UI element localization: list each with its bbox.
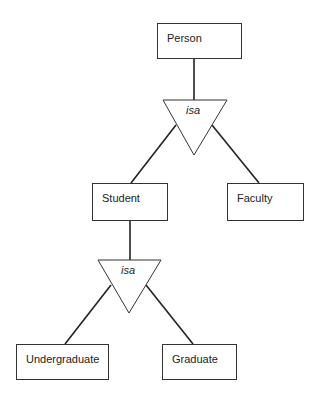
entity-student: Student [92,183,168,221]
entity-label: Graduate [172,353,218,365]
entity-graduate: Graduate [162,344,237,380]
entity-label: Person [167,32,202,44]
isa-label-1: isa [186,104,200,116]
isa-label-2: isa [121,264,135,276]
entity-label: Faculty [237,192,272,204]
entity-faculty: Faculty [227,183,304,221]
entity-person: Person [157,23,242,59]
entity-label: Student [102,192,140,204]
entity-label: Undergraduate [26,353,99,365]
entity-undergraduate: Undergraduate [16,344,109,380]
